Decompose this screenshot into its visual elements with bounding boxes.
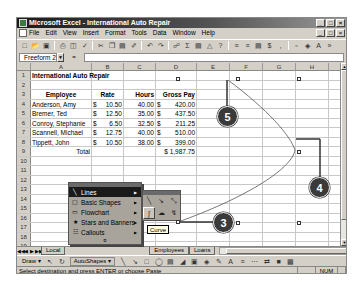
column-header-d[interactable]: D	[156, 63, 197, 71]
insert-hyperlink-icon[interactable]: ☍	[172, 41, 181, 50]
doc-restore-button[interactable]: □	[326, 29, 335, 37]
row-header[interactable]: 3	[17, 90, 31, 99]
selection-handle[interactable]	[297, 150, 301, 154]
column-header-a[interactable]: A	[31, 63, 92, 71]
cell-f18[interactable]	[230, 233, 263, 242]
name-box[interactable]: Freeform 2	[19, 53, 57, 62]
cell-f14[interactable]	[230, 195, 263, 204]
cell-f10[interactable]	[230, 157, 263, 166]
freeform-icon[interactable]: ☁	[155, 207, 167, 219]
menu-item-flowchart[interactable]: ▭ Flowchart ▶	[69, 207, 141, 217]
cell-d8[interactable]: $399.00	[156, 138, 197, 147]
cell-f3[interactable]	[230, 90, 263, 99]
cell-d11[interactable]	[156, 166, 197, 175]
cell-a2[interactable]	[31, 81, 92, 90]
cell-b9[interactable]	[92, 147, 124, 156]
menu-file[interactable]: File	[29, 28, 39, 38]
cell-b6[interactable]: $6.50	[92, 119, 124, 128]
cell-g15[interactable]	[263, 204, 296, 213]
cell-a1[interactable]: International Auto Repair	[31, 71, 92, 80]
cell-e2[interactable]	[197, 81, 230, 90]
cell-c6[interactable]: 32.50	[124, 119, 156, 128]
horizontal-scrollbar[interactable]	[219, 247, 346, 255]
doc-minimize-button[interactable]: _	[316, 29, 325, 37]
arrow-icon[interactable]: ↘	[155, 195, 167, 207]
menu-item-lines[interactable]: ╲ Lines ▶	[69, 187, 141, 197]
column-header-b[interactable]: B	[92, 63, 124, 71]
cell-f16[interactable]	[230, 214, 263, 223]
cell-c8[interactable]: 38.00	[124, 138, 156, 147]
cell-h6[interactable]	[296, 119, 329, 128]
menu-item-callouts[interactable]: ☷ Callouts ▶	[69, 227, 141, 237]
autosum-icon[interactable]: Σ	[183, 41, 192, 50]
borders-icon[interactable]: ▫	[292, 41, 301, 50]
cell-c2[interactable]	[124, 81, 156, 90]
cell-g3[interactable]	[263, 90, 296, 99]
cell-h4[interactable]	[296, 100, 329, 109]
cell-f17[interactable]	[230, 223, 263, 232]
cell-h3[interactable]	[296, 90, 329, 99]
menu-insert[interactable]: Insert	[83, 28, 99, 38]
wordart-icon[interactable]: ◢	[178, 257, 187, 266]
cell-b2[interactable]	[92, 81, 124, 90]
cell-g4[interactable]	[263, 100, 296, 109]
save-icon[interactable]: ▣	[42, 41, 51, 50]
close-button[interactable]: ×	[336, 19, 345, 27]
row-header[interactable]: 2	[17, 81, 31, 90]
cell-d5[interactable]: $437.50	[156, 109, 197, 118]
vertical-scroll-thumb[interactable]	[341, 70, 347, 220]
autoshapes-menu-button[interactable]: AutoShapes ▾	[70, 257, 115, 266]
line-color-icon[interactable]: ✎	[214, 257, 223, 266]
cell-a4[interactable]: Anderson, Amy	[31, 100, 92, 109]
curve-icon[interactable]: ∫	[143, 207, 155, 219]
column-header-g[interactable]: G	[263, 63, 296, 71]
select-all-corner[interactable]	[17, 63, 31, 71]
cell-a10[interactable]	[31, 157, 92, 166]
redo-icon[interactable]: ↷	[156, 41, 165, 50]
cell-b5[interactable]: $12.50	[92, 109, 124, 118]
cell-a3[interactable]: Employee	[31, 90, 92, 99]
selection-handle[interactable]	[297, 221, 301, 225]
cell-g18[interactable]	[263, 233, 296, 242]
text-box-icon[interactable]: ▤	[166, 257, 175, 266]
drawing-icon[interactable]: △	[205, 41, 214, 50]
tab-loans[interactable]: Loans	[189, 247, 215, 255]
cell-h2[interactable]	[296, 81, 329, 90]
cell-b3[interactable]: Rate	[92, 90, 124, 99]
selection-handle[interactable]	[236, 77, 240, 81]
cell-e14[interactable]	[197, 195, 230, 204]
cell-g17[interactable]	[263, 223, 296, 232]
tab-local[interactable]: Local	[41, 247, 65, 255]
row-header[interactable]: 1	[17, 71, 31, 80]
selection-handle[interactable]	[176, 220, 180, 224]
spelling-icon[interactable]: ✓	[80, 41, 89, 50]
cell-e18[interactable]	[197, 233, 230, 242]
cell-g9[interactable]	[263, 147, 296, 156]
cell-g6[interactable]	[263, 119, 296, 128]
format-painter-icon[interactable]: ✐	[129, 41, 138, 50]
cell-e13[interactable]	[197, 185, 230, 194]
scroll-down-icon[interactable]: ▼	[341, 239, 347, 246]
cell-a5[interactable]: Bremer, Ted	[31, 109, 92, 118]
cell-g13[interactable]	[263, 185, 296, 194]
cell-b8[interactable]: $10.50	[92, 138, 124, 147]
cell-h15[interactable]	[296, 204, 329, 213]
cell-b11[interactable]	[92, 166, 124, 175]
cell-a11[interactable]	[31, 166, 92, 175]
cell-g7[interactable]	[263, 128, 296, 137]
cell-d7[interactable]: $510.00	[156, 128, 197, 137]
minimize-button[interactable]: _	[316, 19, 325, 27]
cell-h7[interactable]	[296, 128, 329, 137]
cell-e10[interactable]	[197, 157, 230, 166]
cell-d3[interactable]: Gross Pay	[156, 90, 197, 99]
cell-a8[interactable]: Tippett, John	[31, 138, 92, 147]
font-color-icon[interactable]: A	[226, 257, 235, 266]
selection-handle[interactable]	[297, 77, 301, 81]
menu-item-basic-shapes[interactable]: ▢ Basic Shapes ▶	[69, 197, 141, 207]
cell-e3[interactable]	[197, 90, 230, 99]
cell-c11[interactable]	[124, 166, 156, 175]
workbook-icon[interactable]	[19, 29, 27, 37]
toolbar-options-icon[interactable]: »	[325, 41, 334, 50]
cell-h11[interactable]	[296, 166, 329, 175]
cell-f15[interactable]	[230, 204, 263, 213]
